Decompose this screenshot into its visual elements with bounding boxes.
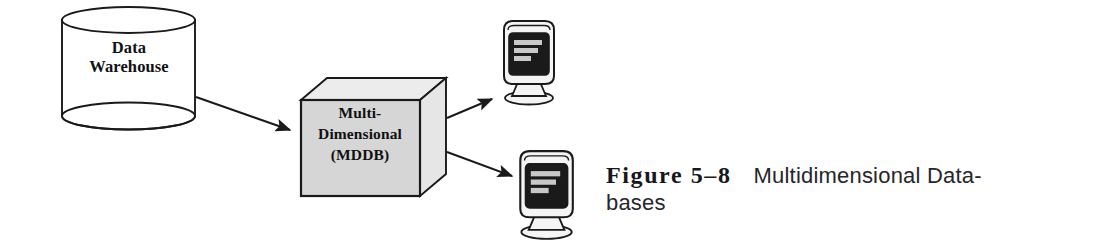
caption-figure-number: Figure 5–8 [606, 162, 732, 188]
caption-title-line-2: bases [606, 190, 666, 215]
data-warehouse-label: Data Warehouse [62, 38, 196, 77]
arrow-mddb-to-client-top [447, 99, 492, 118]
computer-monitor-icon-bottom [520, 151, 573, 239]
caption-line-2: bases [606, 190, 1076, 218]
caption-line-1: Figure 5–8Multidimensional Data- [606, 162, 1076, 190]
figure-caption: Figure 5–8Multidimensional Data- bases [606, 162, 1076, 218]
mddb-cube-label: Multi- Dimensional (MDDB) [298, 103, 422, 165]
computer-monitor-icon-top [504, 21, 554, 105]
caption-title-line-1: Multidimensional Data- [754, 163, 982, 188]
arrow-warehouse-to-mddb [196, 97, 290, 130]
arrow-mddb-to-client-bottom [447, 152, 512, 176]
figure-multidimensional-databases: Data Warehouse Multi- Dimensional (MDDB)… [0, 0, 1105, 246]
